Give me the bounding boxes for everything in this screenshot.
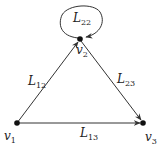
node-label-v2: v2 — [76, 43, 88, 59]
graph-diagram: L22 L12 L23 L13 v1 v2 — [0, 0, 164, 147]
node-v1: v1 — [4, 120, 20, 145]
edge-label-L23: L23 — [116, 72, 135, 88]
edge-L23: L23 — [81, 41, 141, 120]
edge-label-L12: L12 — [27, 74, 46, 90]
node-dot-v3 — [140, 120, 146, 126]
node-label-v3: v3 — [145, 130, 157, 146]
node-v3: v3 — [140, 120, 157, 146]
edge-L22: L22 — [60, 6, 102, 38]
node-label-v1: v1 — [4, 129, 16, 145]
edge-L13: L13 — [17, 123, 140, 142]
edge-label-L22: L22 — [72, 11, 91, 27]
node-dot-v2 — [77, 36, 83, 42]
node-dot-v1 — [14, 120, 20, 126]
edge-L12: L12 — [17, 42, 78, 123]
edge-line-L12 — [17, 42, 78, 123]
edge-label-L13: L13 — [79, 126, 98, 142]
